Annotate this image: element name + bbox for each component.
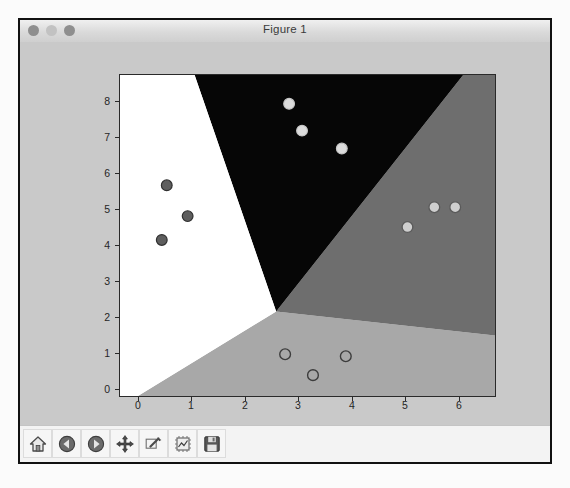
data-point (450, 202, 461, 213)
ytick-mark (115, 173, 119, 174)
back-button[interactable] (52, 429, 81, 458)
ytick-mark (115, 101, 119, 102)
ytick-mark (115, 389, 119, 390)
data-point (156, 235, 167, 246)
ytick-mark (115, 317, 119, 318)
ytick-label: 4 (94, 239, 110, 251)
plot-axes[interactable] (119, 74, 496, 397)
ytick-label: 2 (94, 311, 110, 323)
navigation-toolbar-strip (20, 425, 550, 462)
pan-button[interactable] (110, 429, 139, 458)
xtick-label: 3 (295, 399, 301, 411)
window-title-bar[interactable]: Figure 1 (20, 20, 550, 43)
xtick-label: 2 (242, 399, 248, 411)
home-button[interactable] (23, 429, 52, 458)
ytick-label: 3 (94, 275, 110, 287)
screenshot-root: Figure 1 (0, 0, 570, 488)
window-title: Figure 1 (20, 23, 550, 35)
scatter-points-layer (120, 75, 495, 396)
save-button[interactable] (197, 429, 226, 458)
ytick-label: 1 (94, 347, 110, 359)
data-point (280, 349, 291, 360)
subplots-button[interactable] (168, 429, 197, 458)
xtick-label: 4 (349, 399, 355, 411)
ytick-mark (115, 245, 119, 246)
zoom-rect-icon (144, 434, 164, 454)
xtick-label: 5 (402, 399, 408, 411)
figure-canvas: 0 1 2 3 4 5 6 0 1 2 3 4 5 6 7 8 (20, 42, 550, 462)
xtick-label: 6 (456, 399, 462, 411)
data-point (340, 351, 351, 362)
zoom-button[interactable] (139, 429, 168, 458)
back-arrow-icon (57, 434, 77, 454)
ytick-mark (115, 209, 119, 210)
ytick-mark (115, 137, 119, 138)
data-point (402, 222, 413, 233)
data-point (429, 202, 440, 213)
sliders-icon (173, 434, 193, 454)
ytick-label: 7 (94, 131, 110, 143)
data-point (297, 125, 308, 136)
ytick-label: 6 (94, 167, 110, 179)
forward-arrow-icon (86, 434, 106, 454)
ytick-mark (115, 353, 119, 354)
ytick-label: 8 (94, 95, 110, 107)
forward-button[interactable] (81, 429, 110, 458)
figure-window: Figure 1 (18, 18, 552, 464)
data-point (161, 180, 172, 191)
xtick-label: 1 (188, 399, 194, 411)
navigation-toolbar[interactable] (23, 429, 226, 458)
move-cross-icon (115, 434, 135, 454)
ytick-label: 5 (94, 203, 110, 215)
data-point (182, 211, 193, 222)
xtick-label: 0 (135, 399, 141, 411)
ytick-mark (115, 281, 119, 282)
data-point (336, 143, 347, 154)
ytick-label: 0 (94, 383, 110, 395)
home-icon (28, 434, 48, 454)
data-point (308, 370, 319, 381)
floppy-disk-icon (202, 434, 222, 454)
data-point (284, 98, 295, 109)
